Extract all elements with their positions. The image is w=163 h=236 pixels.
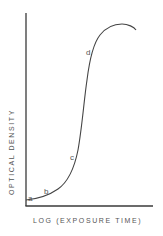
point-label-d: d — [86, 48, 90, 57]
x-axis-label: LOG (EXPOSURE TIME) — [33, 217, 142, 225]
y-axis-label: OPTICAL DENSITY — [8, 109, 15, 195]
point-label-b: b — [44, 187, 49, 196]
point-label-a: a — [28, 194, 33, 203]
characteristic-curve-diagram: a b c d OPTICAL DENSITY LOG (EXPOSURE TI… — [0, 0, 163, 236]
point-label-c: c — [70, 153, 74, 162]
density-curve — [26, 24, 136, 200]
